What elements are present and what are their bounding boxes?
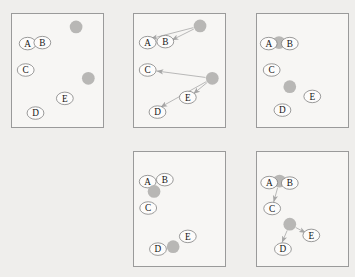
movement-arrow [151,28,194,39]
gray-disc [70,21,83,34]
node-e-label: E [309,92,315,102]
panel-2-drawing: ABCED [134,14,225,127]
node-c-label: C [145,203,151,213]
five-panel-node-diagram: ABCEDABCEDABCEDABCDEABCED [0,0,355,277]
panel-5-drawing: ABCED [257,152,348,266]
movement-arrow [274,188,278,202]
node-a-label: A [24,39,31,49]
node-e-label: E [308,231,314,241]
node-b-label: B [162,37,168,47]
node-e-label: E [62,94,68,104]
node-d-label: D [155,244,162,254]
node-c-label: C [23,65,29,75]
movement-arrow [193,83,207,94]
node-a-label: A [265,39,272,49]
node-b-label: B [287,39,293,49]
node-d-label: D [32,108,39,118]
gray-disc [283,218,296,231]
node-c-label: C [269,65,275,75]
panel-4-drawing: ABCDE [134,152,225,266]
node-a-label: A [266,178,273,188]
node-d-label: D [279,105,286,115]
node-c-label: C [145,65,151,75]
gray-disc [206,72,219,85]
gray-disc [82,72,95,85]
node-a-label: A [144,177,151,187]
gray-disc [167,240,180,253]
node-e-label: E [185,93,191,103]
node-c-label: C [269,204,275,214]
panel-1-drawing: ABCED [12,14,103,127]
gray-disc [283,80,296,93]
movement-arrow [282,231,287,243]
panel-1: ABCED [11,13,104,128]
gray-disc [148,185,161,198]
panel-2: ABCED [133,13,226,128]
node-e-label: E [185,232,191,242]
panel-4: ABCDE [133,151,226,267]
movement-arrow [157,71,206,77]
node-d-label: D [280,244,287,254]
node-b-label: B [162,175,168,185]
panel-3-drawing: ABCED [257,14,348,127]
panel-5: ABCED [256,151,349,267]
node-a-label: A [144,38,151,48]
node-b-label: B [287,178,293,188]
panel-3: ABCED [256,13,349,128]
node-b-label: B [39,38,45,48]
gray-disc [194,20,207,33]
node-d-label: D [154,107,161,117]
